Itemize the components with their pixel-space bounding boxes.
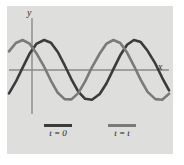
legend: t = 0 t = t [7, 124, 173, 150]
legend-label-tt: t = t [114, 129, 130, 138]
x-axis-label: x [158, 62, 162, 72]
legend-item-tt: t = t [99, 124, 145, 150]
legend-item-t0: t = 0 [35, 124, 81, 150]
y-axis-label: y [27, 8, 31, 18]
line-sample-light-icon [108, 124, 136, 127]
line-sample-dark-icon [44, 124, 72, 127]
wave-figure: y x t = 0 t = t [0, 0, 184, 165]
legend-label-t0: t = 0 [49, 129, 67, 138]
